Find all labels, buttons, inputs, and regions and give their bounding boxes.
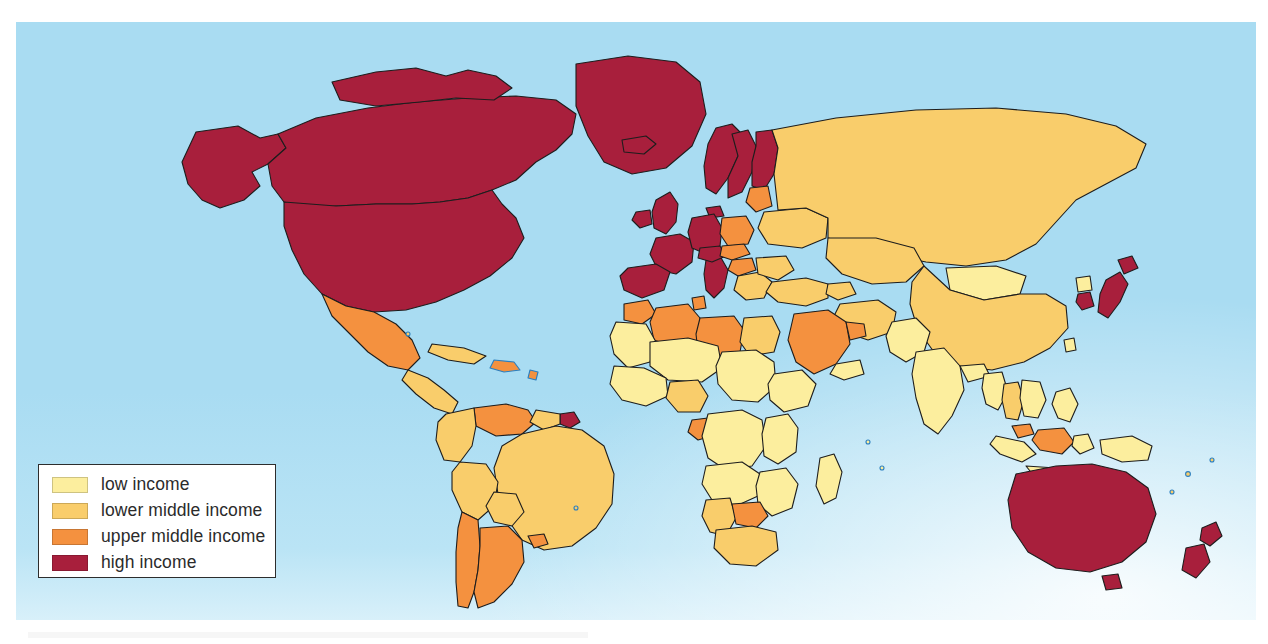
country-japan-hokkaido [1118, 256, 1138, 274]
country-ethiopia-somalia [768, 370, 816, 412]
country-canada [268, 96, 576, 208]
country-baltic-states [746, 186, 772, 212]
region-asia [766, 108, 1152, 476]
legend-swatch-lower-middle-income [52, 503, 88, 519]
country-new-zealand-south [1182, 544, 1210, 578]
country-tasmania [1102, 574, 1122, 590]
world-income-map-figure: .l { fill:#fcee9e; } .lm { fill:#f9cd6b;… [0, 0, 1268, 644]
legend-label-low-income: low income [101, 476, 190, 494]
island-dot-atlantic-1 [574, 506, 578, 510]
country-united-kingdom [652, 192, 678, 234]
country-east-africa [762, 414, 798, 464]
country-malaysia [1012, 424, 1034, 438]
country-venezuela [474, 404, 536, 436]
island-dot-pacific-2 [1170, 490, 1174, 494]
country-united-states [284, 190, 524, 312]
country-caucasus [826, 282, 856, 300]
region-oceania [1008, 464, 1222, 590]
legend-item-high-income: high income [39, 550, 275, 576]
country-madagascar [816, 454, 842, 504]
island-hispaniola [490, 360, 520, 372]
country-finland [752, 130, 778, 190]
legend-swatch-high-income [52, 555, 88, 571]
island-dot-pacific-1 [1186, 472, 1191, 477]
island-dot-indian-1 [866, 440, 870, 444]
country-egypt [740, 316, 780, 356]
country-spain-portugal [620, 264, 670, 298]
legend-swatch-low-income [52, 477, 88, 493]
country-nigeria [666, 380, 708, 412]
country-chad-sudan [716, 350, 776, 402]
country-botswana [732, 502, 768, 528]
legend-item-upper-middle-income: upper middle income [39, 524, 275, 550]
country-french-guiana [560, 412, 580, 428]
country-tunisia [692, 296, 706, 310]
island-dot-indian-2 [880, 466, 884, 470]
country-turkey [766, 278, 828, 306]
region-south-america [436, 404, 614, 608]
legend-item-low-income: low income [39, 472, 275, 498]
country-indonesia-sulawesi [1072, 434, 1094, 454]
legend-label-high-income: high income [101, 554, 196, 572]
country-central-america [402, 370, 458, 414]
country-drc-congo [702, 410, 766, 470]
country-philippines [1052, 388, 1078, 422]
country-colombia [436, 408, 476, 462]
legend-label-upper-middle-income: upper middle income [101, 528, 265, 546]
country-new-zealand-north [1200, 522, 1222, 546]
country-gulf-states [846, 322, 866, 340]
country-greenland [576, 56, 706, 174]
country-argentina [474, 526, 524, 608]
country-poland [720, 216, 754, 246]
island-dot-atlantic-2 [406, 332, 410, 336]
country-vietnam-laos-cambodia [1020, 380, 1046, 418]
map-legend: low income lower middle income upper mid… [38, 464, 276, 578]
country-western-sahara-mauritania [610, 322, 656, 368]
country-south-africa [714, 526, 778, 566]
country-papua-new-guinea [1100, 436, 1152, 462]
legend-swatch-upper-middle-income [52, 529, 88, 545]
country-taiwan [1064, 338, 1076, 352]
country-north-korea [1076, 276, 1092, 292]
country-south-korea [1076, 292, 1094, 310]
island-lesser-antilles [528, 370, 538, 380]
country-indonesia-borneo [1032, 428, 1074, 454]
legend-item-lower-middle-income: lower middle income [39, 498, 275, 524]
country-japan [1098, 272, 1128, 318]
country-belarus-ukraine [758, 208, 828, 248]
country-ireland [632, 210, 652, 228]
page-bottom-artifact [28, 632, 588, 638]
country-india [912, 348, 964, 434]
legend-label-lower-middle-income: lower middle income [101, 502, 262, 520]
country-australia [1008, 464, 1156, 572]
country-italy [704, 256, 728, 298]
country-czech-slovakia [720, 244, 750, 260]
country-indonesia-sumatra [990, 436, 1036, 462]
country-cuba [428, 344, 486, 364]
island-dot-pacific-3 [1210, 458, 1214, 462]
